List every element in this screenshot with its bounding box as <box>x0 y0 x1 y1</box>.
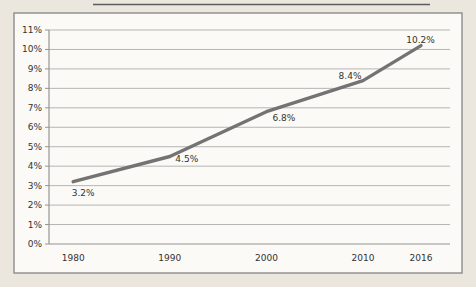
y-axis-label-2pct: 2% <box>28 200 43 210</box>
x-axis-label-2010: 2010 <box>352 253 375 263</box>
y-axis-label-3pct: 3% <box>28 181 43 191</box>
data-label-10.2%: 10.2% <box>406 35 435 45</box>
x-axis-label-1990: 1990 <box>158 253 181 263</box>
data-label-3.2%: 3.2% <box>72 188 95 198</box>
x-axis-label-2000: 2000 <box>255 253 278 263</box>
y-axis-label-9pct: 9% <box>28 64 43 74</box>
data-label-6.8%: 6.8% <box>272 113 295 123</box>
chart-frame <box>14 13 462 273</box>
y-axis-label-6pct: 6% <box>28 122 43 132</box>
y-axis-label-0pct: 0% <box>28 239 43 249</box>
line-chart-figure: 0%1%2%3%4%5%6%7%8%9%10%11%19801990200020… <box>0 0 476 287</box>
scanned-page: 0%1%2%3%4%5%6%7%8%9%10%11%19801990200020… <box>0 0 476 287</box>
y-axis-label-8pct: 8% <box>28 83 43 93</box>
y-axis-label-5pct: 5% <box>28 142 43 152</box>
x-axis-label-2016: 2016 <box>410 253 433 263</box>
y-axis-label-11pct: 11% <box>22 25 42 35</box>
y-axis-label-1pct: 1% <box>28 220 43 230</box>
y-axis-label-4pct: 4% <box>28 161 43 171</box>
data-label-8.4%: 8.4% <box>339 71 362 81</box>
y-axis-label-7pct: 7% <box>28 103 43 113</box>
y-axis-label-10pct: 10% <box>22 44 42 54</box>
data-label-4.5%: 4.5% <box>175 154 198 164</box>
x-axis-label-1980: 1980 <box>62 253 85 263</box>
